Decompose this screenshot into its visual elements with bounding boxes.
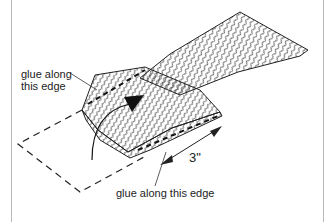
glue-label-top-line2: this edge: [21, 80, 72, 92]
glue-label-bottom: glue along this edge: [116, 187, 214, 199]
glue-label-top-line1: glue along: [21, 68, 72, 80]
glue-label-top: glue along this edge: [21, 68, 72, 92]
dimension-label: 3": [189, 152, 201, 164]
